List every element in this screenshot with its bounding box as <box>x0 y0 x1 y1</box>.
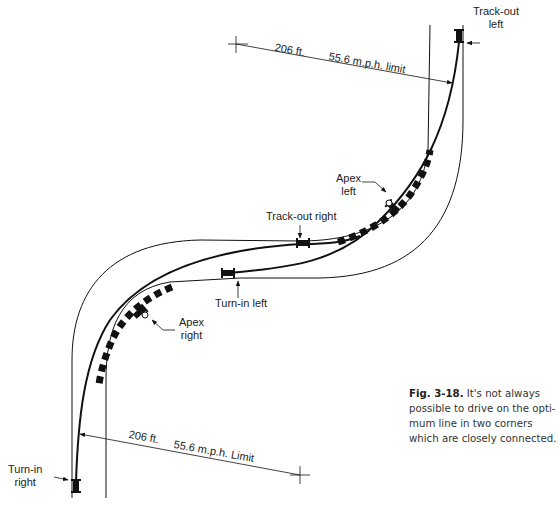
label-line: Track-out <box>473 5 519 18</box>
apex-curb-right <box>99 287 172 385</box>
apex-marker-right <box>142 312 148 318</box>
label-line: left <box>473 18 519 31</box>
apex-marker-left <box>386 200 392 206</box>
road-outer-edge <box>72 25 430 498</box>
label-line: Turn-in <box>8 463 42 476</box>
racing-line <box>76 42 459 482</box>
label-line: Apex <box>179 316 204 329</box>
figure-caption: Fig. 3-18. It's not always possible to d… <box>409 386 559 446</box>
label-line: left <box>336 185 361 198</box>
label-turn-in-left: Turn-in left <box>215 297 267 310</box>
car-track-out-right <box>296 238 310 248</box>
label-turn-in-right: Turn-in right <box>8 463 42 489</box>
label-apex-left: Apex left <box>336 172 361 198</box>
label-track-out-left: Track-out left <box>473 5 519 31</box>
label-line: right <box>179 329 204 342</box>
car-turn-in-left <box>221 268 235 278</box>
figure-number: Fig. 3-18. <box>409 388 464 399</box>
caption-line: mum line in two corners <box>409 418 533 429</box>
caption-line: It's not always <box>467 388 540 399</box>
label-line: Apex <box>336 172 361 185</box>
road-edges <box>72 25 463 498</box>
label-apex-right: Apex right <box>179 316 204 342</box>
label-line: right <box>8 476 42 489</box>
caption-line: possible to drive on the opti- <box>409 403 556 414</box>
label-track-out-right: Track-out right <box>266 210 337 223</box>
figure-canvas: Track-out left Apex left Track-out right… <box>0 0 559 509</box>
caption-line: which are closely connected. <box>409 433 557 444</box>
